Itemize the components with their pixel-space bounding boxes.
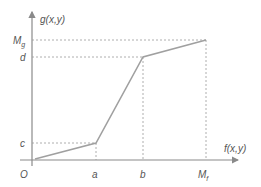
x-tick-mf-sub: f bbox=[206, 175, 209, 182]
y-tick-c: c bbox=[20, 138, 25, 149]
piecewise-linear-transform-diagram: g(x,y) f(x,y) O Mg d c a b Mf bbox=[0, 0, 261, 187]
y-tick-mg: Mg bbox=[13, 35, 25, 49]
x-tick-a: a bbox=[92, 169, 98, 180]
x-tick-mf: Mf bbox=[198, 169, 209, 182]
y-tick-d: d bbox=[20, 52, 26, 63]
x-tick-b: b bbox=[140, 169, 146, 180]
x-axis-label: f(x,y) bbox=[224, 143, 246, 154]
piecewise-linear-curve bbox=[35, 40, 206, 159]
y-axis-label: g(x,y) bbox=[40, 14, 65, 25]
origin-label: O bbox=[20, 169, 28, 180]
y-tick-mg-sub: g bbox=[21, 41, 25, 49]
